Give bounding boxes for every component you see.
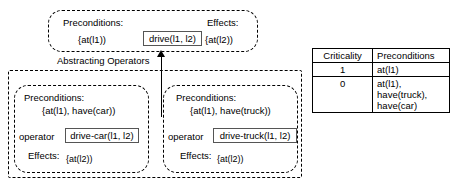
cell-criticality: 0 (313, 77, 373, 113)
car-effects-value: {at(l2)) (66, 154, 93, 164)
abstract-preconditions-label: Preconditions: (63, 17, 123, 28)
car-operator-name-chip[interactable]: drive-car(l1, l2) (65, 128, 139, 143)
header-criticality: Criticality (313, 49, 373, 63)
abstraction-arrow-head (157, 50, 165, 57)
cell-preconditions: at(l1), have(truck), have(car) (373, 77, 450, 113)
diagram-canvas: Preconditions: {at(l1)) Effects: {at(l2)… (0, 0, 450, 184)
car-effects-label: Effects: (28, 150, 60, 161)
car-preconditions-value: {at(l1), have(car)) (42, 105, 115, 116)
truck-preconditions-label: Preconditions: (176, 92, 236, 103)
car-preconditions-label: Preconditions: (24, 92, 84, 103)
truck-operator-label: operator (168, 131, 203, 142)
table-header-row: Criticality Preconditions (313, 49, 450, 63)
table-row: 0 at(l1), have(truck), have(car) (313, 77, 450, 113)
abstract-preconditions-value: {at(l1)) (78, 34, 106, 45)
header-preconditions: Preconditions (373, 49, 450, 63)
criticality-table: Criticality Preconditions 1 at(l1) 0 at(… (312, 48, 450, 113)
abstract-effects-label: Effects: (207, 17, 239, 28)
truck-operator-name-chip[interactable]: drive-truck(l1, l2) (213, 128, 297, 143)
car-operator-label: operator (19, 131, 54, 142)
truck-preconditions-value: {at(l1), have(truck)) (190, 105, 271, 116)
truck-effects-value: {at(l2)) (217, 154, 244, 164)
truck-effects-label: Effects: (180, 150, 212, 161)
abstract-operator-name-chip[interactable]: drive(l1, l2) (143, 31, 202, 46)
abstracting-operators-caption: Abstracting Operators (56, 55, 150, 66)
cell-preconditions: at(l1) (373, 63, 450, 77)
table-row: 1 at(l1) (313, 63, 450, 77)
abstract-effects-value: {at(l2)) (205, 34, 233, 45)
cell-criticality: 1 (313, 63, 373, 77)
